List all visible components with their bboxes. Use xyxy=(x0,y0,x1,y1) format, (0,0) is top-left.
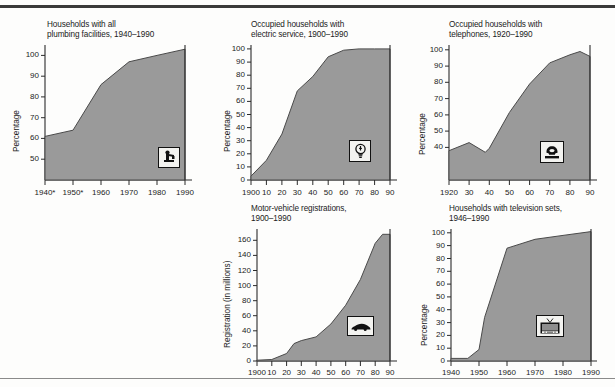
y-tick-television: 90 xyxy=(423,241,445,250)
y-tick-motor-vehicles: 120 xyxy=(227,266,251,275)
telephone-glyph xyxy=(543,144,561,160)
y-tick-motor-vehicles: 100 xyxy=(227,281,251,290)
y-tick-motor-vehicles: 80 xyxy=(229,296,251,305)
faucet-glyph xyxy=(161,150,177,165)
y-tick-electric: 90 xyxy=(223,57,245,66)
y-tick-motor-vehicles: 0 xyxy=(229,356,251,365)
plot-area-motor-vehicles xyxy=(257,229,397,361)
y-tick-motor-vehicles: 40 xyxy=(229,326,251,335)
y-tick-electric: 50 xyxy=(223,110,245,119)
telephone-icon xyxy=(540,141,564,163)
y-tick-plumbing: 70 xyxy=(17,113,39,122)
y-tick-telephones: 50 xyxy=(421,126,443,135)
y-tick-plumbing: 100 xyxy=(15,50,39,59)
y-tick-television: 80 xyxy=(423,254,445,263)
y-tick-telephones: 70 xyxy=(421,94,443,103)
y-tick-electric: 20 xyxy=(223,149,245,158)
y-tick-electric: 80 xyxy=(223,70,245,79)
y-tick-electric: 30 xyxy=(223,136,245,145)
y-tick-telephones: 60 xyxy=(421,110,443,119)
y-tick-plumbing: 50 xyxy=(17,154,39,163)
y-tick-television: 40 xyxy=(423,305,445,314)
y-tick-telephones: 80 xyxy=(421,77,443,86)
y-tick-plumbing: 90 xyxy=(17,71,39,80)
x-tick-plumbing: 1990 xyxy=(168,188,202,197)
plot-area-electric xyxy=(251,45,397,180)
chart-title-motor-vehicles: Motor-vehicle registrations, 1900–1990 xyxy=(251,204,416,223)
y-tick-television: 100 xyxy=(421,228,445,237)
chart-title-electric: Occupied households with electric servic… xyxy=(251,20,416,39)
x-tick-television: 1990 xyxy=(579,368,603,377)
y-tick-plumbing: 80 xyxy=(17,92,39,101)
area-series-television xyxy=(451,232,591,361)
y-tick-motor-vehicles: 160 xyxy=(227,235,251,244)
y-tick-television: 50 xyxy=(423,292,445,301)
plot-area-television xyxy=(451,229,597,361)
area-series-motor-vehicles xyxy=(257,234,390,361)
television-glyph xyxy=(539,318,561,335)
chart-title-plumbing: Households with all plumbing facilities,… xyxy=(47,20,207,39)
y-tick-television: 20 xyxy=(423,330,445,339)
chart-title-telephones: Occupied households with telephones, 192… xyxy=(449,20,614,39)
plot-svg-electric xyxy=(251,45,397,180)
plot-svg-motor-vehicles xyxy=(257,229,397,361)
y-tick-electric: 40 xyxy=(223,123,245,132)
y-tick-television: 10 xyxy=(423,343,445,352)
lightbulb-icon xyxy=(349,140,371,162)
car-glyph xyxy=(350,320,371,333)
chart-panel-telephones: Occupied households with telephones, 192… xyxy=(410,10,615,195)
y-tick-plumbing: 60 xyxy=(17,133,39,142)
y-tick-electric: 10 xyxy=(223,162,245,171)
y-tick-television: 30 xyxy=(423,318,445,327)
y-tick-television: 70 xyxy=(423,266,445,275)
x-tick-television: 1940 xyxy=(439,368,463,377)
x-tick-television: 1950 xyxy=(467,368,491,377)
television-icon xyxy=(536,315,564,337)
plot-svg-telephones xyxy=(449,45,597,180)
y-tick-telephones: 100 xyxy=(419,45,443,54)
lightbulb-glyph xyxy=(353,143,368,159)
top-rule xyxy=(0,5,615,8)
chart-panel-television: Households with television sets, 1946–19… xyxy=(410,196,615,387)
x-tick-television: 1970 xyxy=(523,368,547,377)
y-tick-telephones: 90 xyxy=(421,61,443,70)
chart-panel-motor-vehicles: Motor-vehicle registrations, 1900–1990 R… xyxy=(215,196,415,387)
x-tick-television: 1980 xyxy=(551,368,575,377)
x-tick-motor-vehicles: 90 xyxy=(381,368,399,377)
faucet-icon xyxy=(158,147,180,168)
car-icon xyxy=(347,316,374,336)
area-series-telephones xyxy=(449,52,590,181)
y-tick-television: 0 xyxy=(423,356,445,365)
plot-area-telephones xyxy=(449,45,597,180)
y-tick-telephones: 40 xyxy=(421,142,443,151)
y-tick-electric: 100 xyxy=(221,44,245,53)
y-tick-electric: 60 xyxy=(223,96,245,105)
chart-panel-plumbing: Households with all plumbing facilities,… xyxy=(0,10,215,195)
chart-title-television: Households with television sets, 1946–19… xyxy=(449,204,615,223)
y-tick-motor-vehicles: 20 xyxy=(229,341,251,350)
plot-svg-television xyxy=(451,229,597,361)
x-tick-television: 1960 xyxy=(495,368,519,377)
y-tick-motor-vehicles: 140 xyxy=(227,250,251,259)
chart-panel-electric: Occupied households with electric servic… xyxy=(215,10,415,195)
y-tick-television: 60 xyxy=(423,279,445,288)
y-tick-electric: 0 xyxy=(223,175,245,184)
y-tick-motor-vehicles: 60 xyxy=(229,311,251,320)
y-tick-electric: 70 xyxy=(223,83,245,92)
